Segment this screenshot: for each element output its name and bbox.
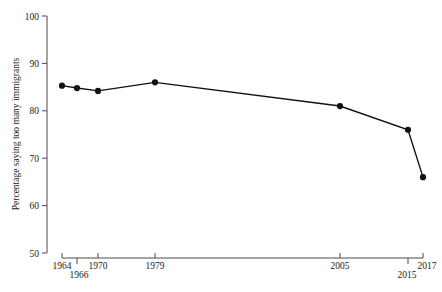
x-tick-label-1966: 1966 [70, 270, 89, 280]
x-tick-label-1970: 1970 [89, 261, 108, 271]
data-point-1979 [152, 79, 158, 85]
y-tick-label-90: 90 [30, 59, 40, 69]
data-point-1964 [59, 83, 65, 89]
y-tick-label-60: 60 [30, 201, 40, 211]
data-point-1970 [95, 88, 101, 94]
data-point-1966 [74, 85, 80, 91]
series-markers-group [59, 79, 426, 180]
y-tick-label-100: 100 [25, 12, 40, 22]
y-tick-label-80: 80 [30, 106, 40, 116]
y-tick-label-70: 70 [30, 154, 40, 164]
y-tick-label-50: 50 [30, 249, 40, 259]
data-point-2005 [337, 103, 343, 109]
x-tick-label-2005: 2005 [331, 261, 350, 271]
data-point-2015 [405, 127, 411, 133]
line-chart-canvas: 100 90 80 70 60 50 Percentage saying too… [0, 0, 442, 292]
x-tick-label-2015: 2015 [398, 270, 417, 280]
x-tick-label-1979: 1979 [146, 261, 165, 271]
series-line-immigrants [62, 82, 423, 177]
chart-figure: 100 90 80 70 60 50 Percentage saying too… [0, 0, 442, 292]
y-axis-title: Percentage saying too many immigrants [11, 57, 21, 210]
data-point-2017 [420, 174, 426, 180]
x-tick-label-2017: 2017 [418, 261, 437, 271]
